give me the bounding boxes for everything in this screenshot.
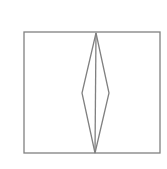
vertical-center-line [95,33,96,153]
geometric-diagram [0,0,167,169]
